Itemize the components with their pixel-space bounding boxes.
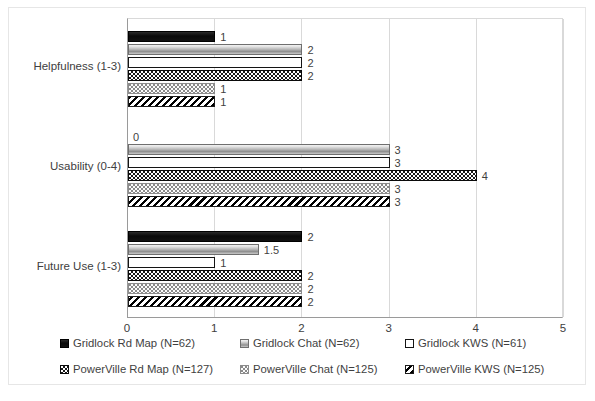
bar-value-label: 1: [215, 96, 226, 108]
bar-group: 122211: [128, 19, 562, 119]
bar-value-label: 3: [390, 157, 401, 169]
plot-area: 12221103343321.51222: [127, 18, 563, 318]
bar[interactable]: [128, 270, 302, 281]
bar-value-label: 2: [302, 296, 313, 308]
bar-value-label: 3: [390, 183, 401, 195]
bar-row: 4: [128, 170, 564, 181]
legend-label: Gridlock Chat (N=62): [253, 338, 359, 349]
bar-row: 3: [128, 183, 564, 194]
y-axis-category-label: Helpfulness (1-3): [8, 60, 121, 72]
bar-row: 2: [128, 57, 564, 68]
legend-item[interactable]: Gridlock Chat (N=62): [240, 338, 359, 349]
chart-legend: Gridlock Rd Map (N=62)Gridlock Chat (N=6…: [0, 338, 595, 394]
bar-value-label: 2: [302, 270, 313, 282]
bar-value-label: 4: [477, 170, 488, 182]
bar-value-label: 3: [390, 144, 401, 156]
legend-label: PowerVille Rd Map (N=127): [73, 364, 213, 375]
bar-value-label: 2: [302, 70, 313, 82]
bar-group: 21.51222: [128, 219, 562, 319]
legend-label: Gridlock Rd Map (N=62): [73, 338, 195, 349]
bar-row: 2: [128, 283, 564, 294]
bar-value-label: 2: [302, 283, 313, 295]
legend-label: Gridlock KWS (N=61): [418, 338, 526, 349]
bar[interactable]: [128, 157, 390, 168]
bar-value-label: 1: [215, 257, 226, 269]
bar-row: 1: [128, 31, 564, 42]
legend-label: PowerVille Chat (N=125): [253, 364, 377, 375]
x-axis-tick-label: 4: [461, 322, 491, 334]
bar-row: 3: [128, 157, 564, 168]
bar[interactable]: [128, 196, 390, 207]
bar[interactable]: [128, 244, 259, 255]
bar[interactable]: [128, 183, 390, 194]
bar-row: 1.5: [128, 244, 564, 255]
legend-swatch-icon: [240, 365, 249, 374]
bar[interactable]: [128, 31, 215, 42]
bar[interactable]: [128, 296, 302, 307]
x-axis-tick-label: 5: [548, 322, 578, 334]
x-axis-tick-label: 3: [374, 322, 404, 334]
bar-value-label: 1.5: [259, 244, 279, 256]
bar-row: 3: [128, 196, 564, 207]
bar-row: 1: [128, 83, 564, 94]
bar-value-label: 3: [390, 196, 401, 208]
legend-label: PowerVille KWS (N=125): [418, 364, 544, 375]
bar-row: 2: [128, 70, 564, 81]
x-axis-tick-label: 0: [112, 322, 142, 334]
bar[interactable]: [128, 231, 302, 242]
bar-value-label: 2: [302, 231, 313, 243]
legend-swatch-icon: [405, 339, 414, 348]
bar[interactable]: [128, 283, 302, 294]
legend-swatch-icon: [60, 365, 69, 374]
bar[interactable]: [128, 170, 477, 181]
bar-row: 2: [128, 231, 564, 242]
x-axis-tick-label: 2: [286, 322, 316, 334]
bar-value-label: 2: [302, 57, 313, 69]
y-axis-category-label: Future Use (1-3): [8, 260, 121, 272]
legend-item[interactable]: PowerVille Chat (N=125): [240, 364, 377, 375]
bar-row: 0: [128, 131, 564, 142]
chart-root: 12221103343321.51222 012345 Helpfulness …: [0, 0, 595, 401]
bar-row: 1: [128, 257, 564, 268]
legend-swatch-icon: [240, 339, 249, 348]
legend-swatch-icon: [405, 365, 414, 374]
bar-value-label: 0: [128, 131, 139, 143]
x-axis-tick-label: 1: [199, 322, 229, 334]
bar-row: 1: [128, 96, 564, 107]
bar-value-label: 1: [215, 31, 226, 43]
bar-row: 2: [128, 44, 564, 55]
bar-row: 2: [128, 270, 564, 281]
legend-swatch-icon: [60, 339, 69, 348]
bar[interactable]: [128, 96, 215, 107]
legend-item[interactable]: Gridlock Rd Map (N=62): [60, 338, 195, 349]
bar[interactable]: [128, 144, 390, 155]
legend-item[interactable]: Gridlock KWS (N=61): [405, 338, 526, 349]
y-axis-category-label: Usability (0-4): [8, 160, 121, 172]
legend-item[interactable]: PowerVille KWS (N=125): [405, 364, 544, 375]
bar-group: 033433: [128, 119, 562, 219]
legend-item[interactable]: PowerVille Rd Map (N=127): [60, 364, 213, 375]
bar[interactable]: [128, 70, 302, 81]
bar[interactable]: [128, 57, 302, 68]
bar[interactable]: [128, 44, 302, 55]
bar-value-label: 2: [302, 44, 313, 56]
bar-value-label: 1: [215, 83, 226, 95]
bar[interactable]: [128, 83, 215, 94]
bar[interactable]: [128, 257, 215, 268]
bar-row: 3: [128, 144, 564, 155]
bar-row: 2: [128, 296, 564, 307]
